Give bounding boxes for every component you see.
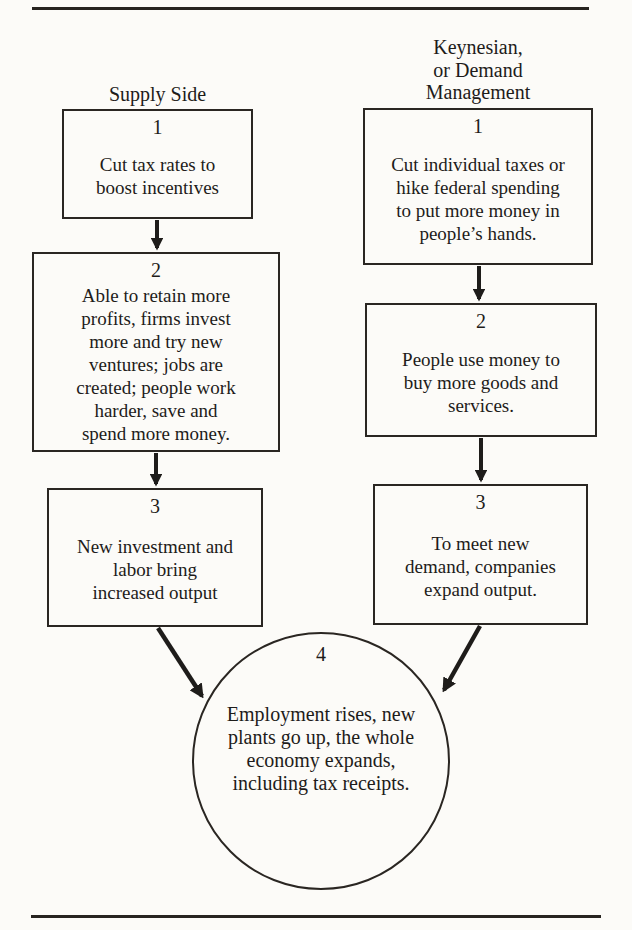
- keynesian-box-2-number: 2: [367, 305, 595, 333]
- supply-box-2: 2 Able to retain moreprofits, firms inve…: [32, 252, 280, 452]
- supply-box-3: 3 New investment andlabor bringincreased…: [47, 488, 263, 627]
- supply-box-2-text: Able to retain moreprofits, firms invest…: [34, 282, 278, 450]
- keynesian-box-3-number: 3: [375, 486, 586, 514]
- keynesian-heading-line-3: Management: [363, 81, 593, 104]
- diagram-page: Supply Side Keynesian, or Demand Managem…: [0, 0, 632, 930]
- keynesian-box-3-text: To meet newdemand, companiesexpand outpu…: [375, 514, 586, 623]
- top-rule: [32, 7, 589, 10]
- outcome-circle: 4 Employment rises, newplants go up, the…: [192, 632, 450, 890]
- keynesian-box-1-text: Cut individual taxes orhike federal spen…: [365, 138, 591, 263]
- keynesian-heading-line-1: Keynesian,: [363, 36, 593, 59]
- keynesian-box-3: 3 To meet newdemand, companiesexpand out…: [373, 484, 588, 625]
- supply-box-2-number: 2: [34, 254, 278, 282]
- outcome-circle-number: 4: [316, 634, 326, 666]
- keynesian-box-2-text: People use money tobuy more goods andser…: [367, 333, 595, 435]
- keynesian-box-2: 2 People use money tobuy more goods ands…: [365, 303, 597, 437]
- bottom-rule: [31, 915, 601, 918]
- supply-box-1-text: Cut tax rates toboost incentives: [64, 139, 251, 217]
- supply-box-1-number: 1: [64, 111, 251, 139]
- keynesian-box-1-number: 1: [365, 110, 591, 138]
- arrow-supply-3-to-outcome: [158, 628, 202, 696]
- supply-box-3-number: 3: [49, 490, 261, 518]
- keynesian-heading-line-2: or Demand: [363, 59, 593, 82]
- supply-side-heading: Supply Side: [62, 83, 253, 106]
- outcome-circle-text: Employment rises, newplants go up, the w…: [227, 703, 415, 795]
- supply-box-1: 1 Cut tax rates toboost incentives: [62, 109, 253, 219]
- keynesian-heading: Keynesian, or Demand Management: [363, 36, 593, 104]
- keynesian-box-1: 1 Cut individual taxes orhike federal sp…: [363, 108, 593, 265]
- supply-box-3-text: New investment andlabor bringincreased o…: [49, 518, 261, 625]
- arrow-keynesian-3-to-outcome: [444, 626, 480, 690]
